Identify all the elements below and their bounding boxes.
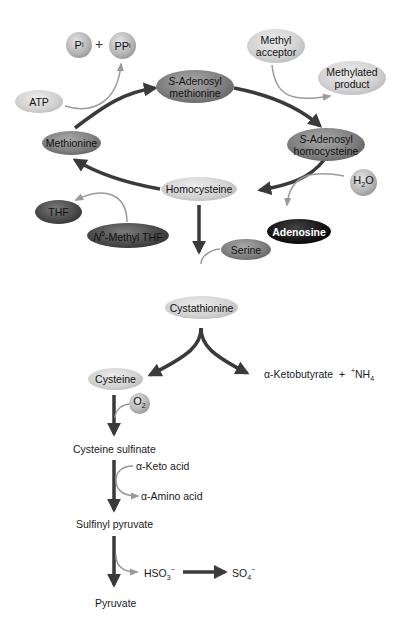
plus-sign: + — [95, 36, 103, 52]
adenosine-node: Adenosine — [267, 219, 331, 244]
arrow-h2o-to-adenosine — [287, 174, 344, 205]
h2o-node: H2O — [350, 169, 377, 196]
cysteine-sulfinate-label: Cysteine sulfinate — [73, 443, 156, 455]
arrow-homocysteine-to-methionine — [75, 160, 160, 189]
thf-node: THF — [35, 200, 82, 224]
main-cycle-arrows — [75, 88, 324, 585]
atp-node: ATP — [15, 90, 63, 113]
s-adenosylhomocysteine-node: S-Adenosylhomocysteine — [287, 128, 365, 161]
ppi-node: PPi — [109, 32, 136, 59]
methyl-acceptor-node: Methylacceptor — [247, 29, 305, 63]
pi-node: Pi — [66, 32, 92, 58]
n5-methyl-thf-node: N5-Methyl THF — [87, 223, 169, 248]
arrow-sulfinyl-to-hso3 — [116, 555, 137, 572]
cystathionine-node: Cystathionine — [165, 296, 238, 319]
amino-acid-label: α-Amino acid — [141, 490, 203, 502]
methionine-node: Methionine — [42, 131, 101, 155]
pyruvate-label: Pyruvate — [95, 597, 136, 609]
arrow-sam-to-sah — [234, 88, 320, 126]
arrow-keto-to-amino — [116, 466, 138, 496]
serine-node: Serine — [221, 239, 271, 260]
homocysteine-node: Homocysteine — [161, 177, 237, 201]
so4-label: SO4− — [232, 566, 255, 581]
arrow-serine-input — [201, 249, 220, 264]
methylated-product-node: Methylatedproduct — [318, 61, 386, 95]
arrow-cystathionine-to-cysteine — [150, 328, 201, 375]
s-adenosylmethionine-node: S-Adenosylmethionine — [156, 70, 234, 103]
arrow-cystathionine-to-ketobutyrate — [201, 328, 247, 373]
keto-acid-label: α-Keto acid — [136, 460, 189, 472]
hso3-label: HSO3− — [144, 566, 175, 581]
sulfinyl-pyruvate-label: Sulfinyl pyruvate — [76, 518, 153, 530]
o2-node: O2 — [129, 393, 150, 414]
cysteine-node: Cysteine — [88, 368, 143, 390]
arrow-n5methylthf-to-thf — [76, 193, 127, 222]
ketobutyrate-label: α-Ketobutyrate + +NH4 — [264, 367, 374, 382]
